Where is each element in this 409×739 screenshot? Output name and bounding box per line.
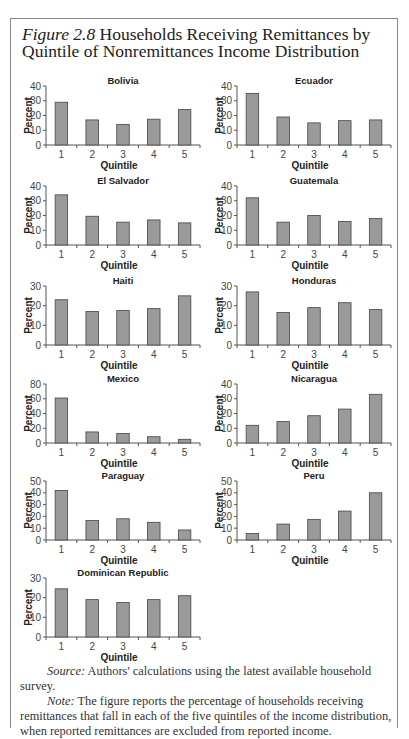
bar [246, 292, 259, 345]
y-tick-label: 40 [221, 379, 233, 390]
x-tick-label: 5 [373, 447, 379, 458]
bar [86, 120, 99, 145]
x-tick-label: 3 [311, 149, 317, 160]
x-tick-label: 4 [342, 249, 348, 260]
bar [117, 603, 130, 637]
x-tick-label: 5 [373, 249, 379, 260]
x-tick-label: 4 [151, 349, 157, 360]
chart-panel-mexico: MexicoPercent02040608012345Quintile [20, 368, 210, 468]
chart-panel-haiti: HaitiPercent010203012345Quintile [20, 270, 210, 370]
x-tick-label: 5 [373, 149, 379, 160]
bar [246, 534, 259, 540]
chart-panel-paraguay: ParaguayPercent0102030405012345Quintile [20, 465, 210, 565]
y-tick-label: 20 [221, 210, 233, 221]
y-tick-label: 0 [226, 535, 232, 546]
x-tick-label: 1 [250, 149, 256, 160]
bar [86, 312, 99, 345]
x-tick-label: 5 [182, 447, 188, 458]
y-tick-label: 10 [221, 523, 233, 534]
x-tick-label: 1 [250, 249, 256, 260]
y-tick-label: 0 [226, 140, 232, 151]
x-tick-label: 1 [59, 641, 65, 652]
x-tick-label: 5 [182, 149, 188, 160]
chart-title: Haiti [113, 275, 134, 286]
bar [86, 600, 99, 637]
bar [339, 221, 352, 245]
chart-title: Peru [303, 470, 324, 481]
x-tick-label: 1 [250, 447, 256, 458]
x-tick-label: 2 [89, 641, 95, 652]
bar [55, 589, 68, 637]
x-tick-label: 3 [311, 249, 317, 260]
chart-title: Bolivia [107, 75, 139, 86]
y-tick-label: 0 [35, 632, 41, 643]
chart-panel-bolivia: BoliviaPercent01020304012345Quintile [20, 70, 210, 170]
x-tick-label: 2 [280, 249, 286, 260]
y-tick-label: 30 [221, 281, 233, 292]
x-tick-label: 1 [250, 349, 256, 360]
x-tick-label: 3 [311, 349, 317, 360]
bar [339, 511, 352, 540]
chart-panel-el-salvador: El SalvadorPercent01020304012345Quintile [20, 170, 210, 270]
bar [339, 121, 352, 145]
y-tick-label: 80 [30, 379, 42, 390]
bar [246, 198, 259, 245]
y-tick-label: 50 [30, 476, 42, 487]
bar [308, 519, 321, 540]
y-tick-label: 30 [30, 95, 42, 106]
x-tick-label: 5 [182, 349, 188, 360]
y-tick-label: 10 [30, 125, 42, 136]
y-tick-label: 30 [221, 499, 233, 510]
source-note: Source: Authors' calculations using the … [20, 664, 392, 694]
bar [277, 524, 290, 540]
bar [148, 220, 161, 245]
x-tick-label: 3 [311, 447, 317, 458]
bar [148, 600, 161, 637]
x-tick-label: 4 [342, 149, 348, 160]
x-tick-label: 4 [342, 447, 348, 458]
bar [117, 311, 130, 345]
y-tick-label: 20 [30, 511, 42, 522]
bar [308, 216, 321, 246]
x-tick-label: 2 [89, 447, 95, 458]
x-tick-label: 4 [342, 544, 348, 555]
x-tick-label: 2 [280, 349, 286, 360]
chart-panel-guatemala: GuatemalaPercent01020304012345Quintile [211, 170, 401, 270]
y-tick-label: 30 [30, 499, 42, 510]
x-tick-label: 5 [182, 544, 188, 555]
bar [369, 493, 382, 540]
bar [308, 416, 321, 443]
x-tick-label: 3 [120, 641, 126, 652]
x-axis-label: Quintile [100, 652, 138, 663]
bar [55, 300, 68, 345]
bar [178, 223, 191, 245]
y-tick-label: 10 [30, 612, 42, 623]
bar [148, 522, 161, 540]
bar [117, 519, 130, 540]
y-tick-label: 30 [221, 95, 233, 106]
y-tick-label: 0 [35, 340, 41, 351]
y-tick-label: 50 [221, 476, 233, 487]
x-tick-label: 2 [280, 149, 286, 160]
x-tick-label: 1 [59, 149, 65, 160]
bar [369, 120, 382, 145]
bar [148, 437, 161, 443]
y-tick-label: 20 [221, 300, 233, 311]
bar [246, 425, 259, 443]
bar [86, 521, 99, 540]
bar [246, 93, 259, 145]
bar [86, 432, 99, 443]
chart-title: Nicaragua [291, 373, 338, 384]
chart-panel-peru: PeruPercent0102030405012345Quintile [211, 465, 401, 565]
bar [339, 409, 352, 443]
bar [277, 117, 290, 145]
x-tick-label: 2 [89, 149, 95, 160]
x-axis-label: Quintile [291, 555, 329, 566]
bar [117, 124, 130, 145]
y-tick-label: 40 [30, 408, 42, 419]
note-text: Note: The figure reports the percentage … [20, 694, 392, 739]
bar [339, 303, 352, 345]
chart-title: Dominican Republic [77, 567, 168, 578]
chart-title: Honduras [292, 275, 336, 286]
x-tick-label: 3 [120, 149, 126, 160]
